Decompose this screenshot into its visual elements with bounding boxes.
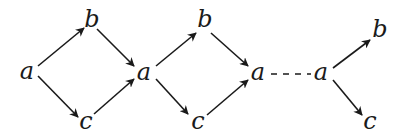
arrow-chain-diagram: abcabcaabc bbox=[0, 0, 405, 136]
arrow-a4-to-b3 bbox=[333, 40, 370, 68]
arrow-a2-to-b2 bbox=[156, 33, 196, 66]
arrow-b1-to-a2 bbox=[97, 29, 134, 66]
arrow-a1-to-c1 bbox=[38, 76, 78, 117]
node-a2: a bbox=[137, 60, 151, 84]
node-b3: b bbox=[372, 17, 387, 41]
node-a3: a bbox=[251, 60, 265, 84]
arrow-a4-to-c3 bbox=[333, 80, 362, 115]
arrow-a1-to-b1 bbox=[38, 28, 84, 66]
node-a1: a bbox=[20, 59, 34, 83]
node-a4: a bbox=[314, 60, 328, 84]
arrow-b2-to-a3 bbox=[211, 33, 248, 66]
arrow-c1-to-a2 bbox=[94, 79, 134, 114]
node-b1: b bbox=[84, 7, 99, 31]
node-c1: c bbox=[79, 109, 92, 133]
arrow-c2-to-a3 bbox=[207, 80, 248, 115]
arrow-a2-to-c2 bbox=[156, 79, 188, 114]
node-b2: b bbox=[197, 7, 212, 31]
node-c3: c bbox=[363, 109, 376, 133]
node-c2: c bbox=[191, 109, 204, 133]
